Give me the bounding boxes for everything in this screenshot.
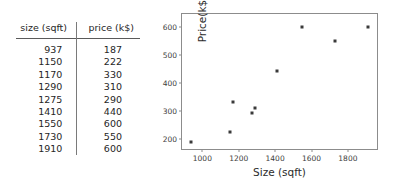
y-tick-label: 400 xyxy=(163,78,177,87)
cell-size: 1170 xyxy=(16,68,77,80)
y-axis-label: Price(k$) xyxy=(196,0,208,88)
data-table-panel: size (sqft) price (k$) 93718711502221170… xyxy=(0,0,158,186)
table-row: 1730550 xyxy=(16,130,140,142)
screenshot-root: size (sqft) price (k$) 93718711502221170… xyxy=(0,0,396,186)
table-row: 1550600 xyxy=(16,118,140,130)
column-header-price: price (k$) xyxy=(77,22,140,39)
plot-frame: 10001200140016001800200300400500600 xyxy=(181,13,378,150)
y-tick-mark xyxy=(179,138,182,139)
cell-price: 310 xyxy=(77,80,140,92)
cell-price: 440 xyxy=(77,105,140,117)
table-row: 1150222 xyxy=(16,56,140,68)
scatter-point xyxy=(189,141,192,144)
cell-price: 222 xyxy=(77,56,140,68)
scatter-point xyxy=(228,131,231,134)
scatter-point xyxy=(301,25,304,28)
cell-size: 1150 xyxy=(16,56,77,68)
y-tick-mark xyxy=(179,26,182,27)
scatter-point xyxy=(275,70,278,73)
scatter-chart-panel: 10001200140016001800200300400500600 Size… xyxy=(158,0,396,186)
cell-price: 187 xyxy=(77,39,140,56)
scatter-point xyxy=(232,101,235,104)
cell-price: 290 xyxy=(77,93,140,105)
table-row: 1275290 xyxy=(16,93,140,105)
cell-size: 1290 xyxy=(16,80,77,92)
scatter-point xyxy=(334,39,337,42)
table-header-row: size (sqft) price (k$) xyxy=(16,22,140,39)
x-tick-mark xyxy=(275,149,276,152)
cell-price: 550 xyxy=(77,130,140,142)
x-tick-mark xyxy=(202,149,203,152)
plot-area: 10001200140016001800200300400500600 xyxy=(182,14,377,149)
cell-size: 1410 xyxy=(16,105,77,117)
cell-price: 600 xyxy=(77,118,140,130)
y-tick-label: 200 xyxy=(163,134,177,143)
table-row: 937187 xyxy=(16,39,140,56)
table-row: 1410440 xyxy=(16,105,140,117)
cell-size: 1910 xyxy=(16,142,77,154)
x-tick-mark xyxy=(238,149,239,152)
scatter-point xyxy=(251,112,254,115)
y-tick-label: 600 xyxy=(163,22,177,31)
table-row: 1170330 xyxy=(16,68,140,80)
scatter-point xyxy=(254,106,257,109)
y-tick-mark xyxy=(179,54,182,55)
y-tick-label: 500 xyxy=(163,50,177,59)
x-tick-mark xyxy=(347,149,348,152)
housing-data-table: size (sqft) price (k$) 93718711502221170… xyxy=(16,22,140,155)
cell-size: 1730 xyxy=(16,130,77,142)
x-tick-label: 1400 xyxy=(266,154,285,163)
scatter-point xyxy=(366,25,369,28)
x-tick-label: 1800 xyxy=(338,154,357,163)
y-tick-mark xyxy=(179,110,182,111)
cell-size: 1275 xyxy=(16,93,77,105)
cell-size: 937 xyxy=(16,39,77,56)
x-tick-mark xyxy=(311,149,312,152)
column-header-size: size (sqft) xyxy=(16,22,77,39)
cell-size: 1550 xyxy=(16,118,77,130)
table-header: size (sqft) price (k$) xyxy=(16,22,140,39)
y-tick-mark xyxy=(179,82,182,83)
table-row: 1910600 xyxy=(16,142,140,154)
cell-price: 600 xyxy=(77,142,140,154)
x-tick-label: 1200 xyxy=(229,154,248,163)
y-tick-label: 300 xyxy=(163,106,177,115)
x-tick-label: 1600 xyxy=(302,154,321,163)
table-row: 1290310 xyxy=(16,80,140,92)
table-body: 9371871150222117033012903101275290141044… xyxy=(16,39,140,155)
x-tick-label: 1000 xyxy=(193,154,212,163)
x-axis-label: Size (sqft) xyxy=(181,166,378,178)
cell-price: 330 xyxy=(77,68,140,80)
